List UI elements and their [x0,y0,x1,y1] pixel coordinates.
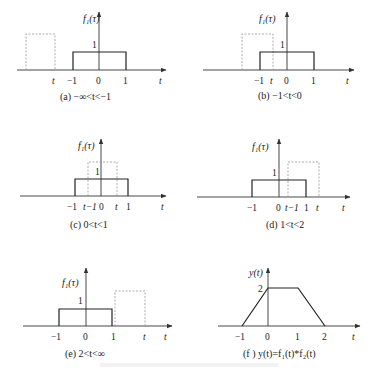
y-axis-label: f₁(τ) [252,141,269,153]
tick-label: 1 [295,332,300,342]
level-label: 1 [280,40,285,50]
tick-label: t [316,203,319,213]
panel-b: f₁(τ) 1 −1 t 0 1 t (b) −1<t<0 [203,12,354,102]
tick-label: t−1 [83,202,97,212]
panel-d: f₁(τ) 1 −1 0 t−1 1 t t (d) 1<t<2 [197,139,350,231]
f1-pulse [75,179,128,196]
y-axis-label: f₁(τ) [62,277,79,289]
y-axis-label: f₁(τ) [83,13,100,25]
panel-caption: (d) 1<t<2 [266,219,304,231]
tick-label: t [270,76,273,86]
tick-label: 0 [99,202,104,212]
y-axis-label: f₁(τ) [259,13,276,25]
axis-label: t [161,202,164,212]
level-label: 1 [272,168,277,178]
tick-label: 0 [83,332,88,342]
tick-label: −1 [247,203,257,213]
y-axis-label: f₁(τ) [78,140,95,152]
axis-label: t [159,76,162,86]
shifted-f2-pulse [26,34,55,70]
panel-e: f₁(τ) 1 −1 0 1 t t (e) 2<t<∞ [23,268,172,360]
axis-label: t [352,332,355,342]
tick-label: 2 [322,332,327,342]
convolution-figure: f₁(τ) 1 t −1 0 1 t (a) −∞<t<−1 f₁(τ) 1 −… [0,0,374,378]
panel-f: y(t) 2 −1 0 1 2 t (f ) y(t)=f₁(t)*f₂(t) [218,267,360,360]
tick-label: 1 [304,203,309,213]
panel-caption: (b) −1<t<0 [258,90,302,102]
tick-label: −1 [235,332,245,342]
tick-label: −1 [51,332,61,342]
tick-label: −1 [67,202,77,212]
tick-label: t [143,332,146,342]
tick-label: 0 [265,332,270,342]
convolution-result-trapezoid [242,288,325,326]
axis-label: t [346,76,349,86]
panel-caption: (a) −∞<t<−1 [60,91,111,103]
panel-caption: (f ) y(t)=f₁(t)*f₂(t) [243,348,316,360]
level-label: 2 [258,284,263,294]
f1-pulse [59,309,112,326]
level-label: 1 [78,296,83,306]
f1-pulse [73,52,126,70]
tick-label: 1 [311,76,316,86]
tick-label: 1 [126,202,131,212]
tick-label: −1 [254,76,264,86]
tick-label: t [115,202,118,212]
y-axis-label: y(t) [248,267,264,279]
tick-label: t−1 [285,203,299,213]
level-label: 1 [92,40,97,50]
shifted-f2-pulse [115,291,145,326]
tick-label: −1 [67,76,77,86]
figure-caption-faint [100,363,278,367]
panel-a: f₁(τ) 1 t −1 0 1 t (a) −∞<t<−1 [17,12,166,103]
axis-label: t [342,203,345,213]
panel-c: f₁(τ) 1 −1 t−1 0 t 1 t (c) 0<t<1 [20,139,166,231]
level-label: 1 [95,167,100,177]
axis-label: t [164,332,167,342]
tick-label: 1 [111,332,116,342]
tick-label: 0 [276,203,281,213]
tick-label: 0 [284,76,289,86]
tick-label: 0 [96,76,101,86]
panel-caption: (e) 2<t<∞ [65,348,105,360]
panel-caption: (c) 0<t<1 [70,219,108,231]
tick-label: 1 [123,76,128,86]
tick-label: t [52,76,55,86]
